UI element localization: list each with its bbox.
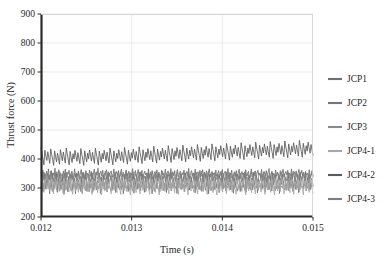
y-tick-label: 800 xyxy=(21,38,36,48)
x-tick-label: 0.012 xyxy=(30,223,52,233)
y-tick-label: 600 xyxy=(21,96,36,106)
y-axis-title: Thrust force (N) xyxy=(5,82,17,148)
y-tick-label: 200 xyxy=(21,212,36,222)
x-tick-label: 0.013 xyxy=(121,223,143,233)
legend-label-jcp4-1: JCP4-1 xyxy=(347,146,375,156)
x-axis-title: Time (s) xyxy=(160,244,194,256)
legend-label-jcp4-3: JCP4-3 xyxy=(347,194,375,204)
legend-label-jcp1: JCP1 xyxy=(347,74,367,84)
y-tick-label: 300 xyxy=(21,183,36,193)
x-tick-label: 0.015 xyxy=(302,223,324,233)
legend-label-jcp2: JCP2 xyxy=(347,98,367,108)
chart-figure: 200300400500600700800900 0.0120.0130.014… xyxy=(0,0,391,263)
y-tick-label: 500 xyxy=(21,125,36,135)
x-tick-label: 0.014 xyxy=(212,223,234,233)
y-tick-label: 700 xyxy=(21,67,36,77)
y-tick-label: 900 xyxy=(21,9,36,19)
legend-label-jcp3: JCP3 xyxy=(347,122,367,132)
legend-label-jcp4-2: JCP4-2 xyxy=(347,170,375,180)
y-tick-label: 400 xyxy=(21,154,36,164)
chart-svg: 200300400500600700800900 0.0120.0130.014… xyxy=(0,0,391,263)
